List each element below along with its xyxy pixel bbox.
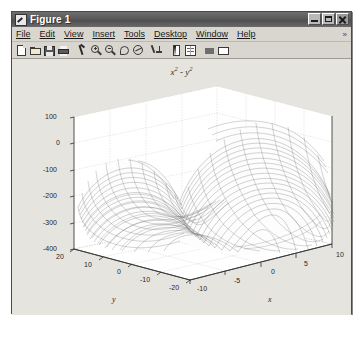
z-axis-ticks — [70, 117, 74, 250]
data-cursor-icon[interactable] — [151, 44, 164, 57]
figure-canvas[interactable]: x2 - y2 — [12, 59, 351, 315]
menu-item-help[interactable]: Help — [237, 29, 256, 39]
hide-plot-tools-icon[interactable] — [203, 44, 216, 57]
figure-window: Figure 1 File Edit View Insert Tools Des… — [11, 11, 352, 314]
menu-item-tools-label: Tools — [124, 29, 145, 39]
matlab-figure-icon — [15, 14, 27, 26]
z-tick-label--300: -300 — [43, 219, 57, 226]
menu-item-help-label: Help — [237, 29, 256, 39]
menu-item-insert-label: Insert — [92, 29, 115, 39]
axes-3d — [12, 59, 351, 315]
menu-item-view[interactable]: View — [64, 29, 83, 39]
maximize-button[interactable] — [322, 13, 335, 25]
x-tick-label--10: -10 — [197, 285, 207, 292]
title-bar[interactable]: Figure 1 — [12, 12, 351, 27]
z-tick-label--200: -200 — [43, 192, 57, 199]
window-title: Figure 1 — [30, 14, 71, 25]
x-axis-label: x — [268, 295, 272, 304]
menu-bar: File Edit View Insert Tools Desktop Wind… — [12, 27, 351, 42]
x-tick-label-0: 0 — [271, 268, 275, 275]
save-figure-icon[interactable] — [43, 44, 56, 57]
z-tick-label-100: 100 — [45, 113, 57, 120]
menu-item-edit-label: Edit — [40, 29, 56, 39]
zoom-out-icon[interactable] — [104, 44, 117, 57]
x-tick-label-5: 5 — [304, 260, 308, 267]
new-figure-icon[interactable] — [15, 44, 28, 57]
menu-item-file-label: File — [16, 29, 31, 39]
print-figure-icon[interactable] — [57, 44, 70, 57]
open-file-icon[interactable] — [29, 44, 42, 57]
edit-plot-arrow-icon[interactable] — [76, 44, 89, 57]
pan-icon[interactable] — [118, 44, 131, 57]
menu-item-view-label: View — [64, 29, 83, 39]
menu-item-desktop-label: Desktop — [154, 29, 187, 39]
y-tick-label--20: -20 — [169, 284, 179, 291]
menu-item-window-label: Window — [196, 29, 228, 39]
tool-bar — [12, 42, 351, 59]
y-tick-label-20: 20 — [56, 253, 64, 260]
insert-legend-icon[interactable] — [184, 44, 197, 57]
z-tick-label--400: -400 — [43, 245, 57, 252]
menu-item-edit[interactable]: Edit — [40, 29, 56, 39]
z-tick-label-0: 0 — [56, 139, 60, 146]
close-button[interactable] — [336, 13, 349, 25]
minimize-button[interactable] — [308, 13, 321, 25]
menu-item-tools[interactable]: Tools — [124, 29, 145, 39]
show-plot-tools-icon[interactable] — [217, 44, 230, 57]
y-axis-label: y — [112, 295, 116, 304]
zoom-in-icon[interactable] — [90, 44, 103, 57]
menu-item-desktop[interactable]: Desktop — [154, 29, 187, 39]
window-controls — [308, 13, 349, 25]
menu-item-insert[interactable]: Insert — [92, 29, 115, 39]
menu-item-file[interactable]: File — [16, 29, 31, 39]
menu-item-window[interactable]: Window — [196, 29, 228, 39]
menu-overflow-icon[interactable]: » — [343, 30, 347, 39]
y-tick-label-0: 0 — [117, 268, 121, 275]
z-tick-label--100: -100 — [43, 166, 57, 173]
y-tick-label--10: -10 — [140, 276, 150, 283]
rotate-3d-icon[interactable] — [132, 44, 145, 57]
insert-colorbar-icon[interactable] — [170, 44, 183, 57]
x-tick-label--5: -5 — [234, 277, 240, 284]
y-tick-label-10: 10 — [84, 261, 92, 268]
x-tick-label-10: 10 — [336, 251, 344, 258]
